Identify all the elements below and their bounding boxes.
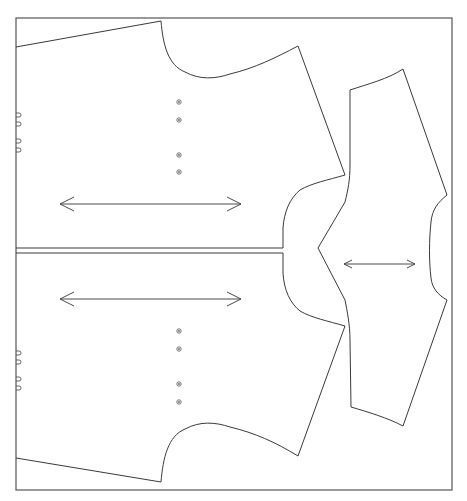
grainline-arrow-upper — [60, 197, 241, 211]
sleeve-outline — [318, 69, 447, 426]
lower-bodice-outline — [16, 253, 345, 482]
pattern-diagram — [0, 0, 467, 501]
notches-upper — [16, 113, 21, 152]
grainline-arrow-lower — [60, 292, 241, 306]
notches-lower — [16, 351, 21, 390]
button-markers-upper — [177, 100, 181, 174]
button-markers-lower — [177, 329, 181, 404]
grainline-arrow-sleeve — [344, 260, 415, 268]
upper-bodice-outline — [16, 21, 345, 248]
